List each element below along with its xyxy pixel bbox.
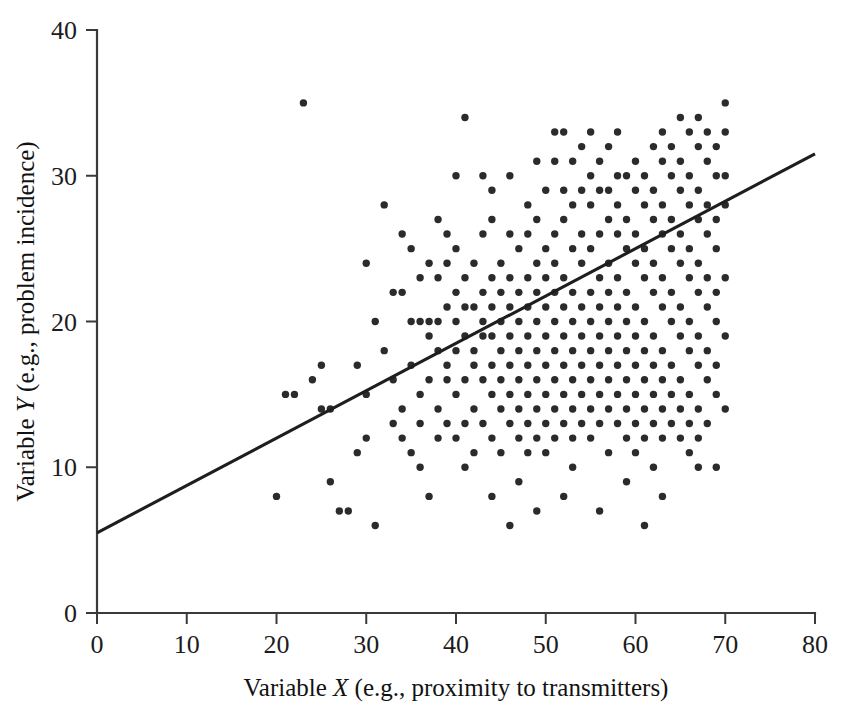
- data-point: [488, 303, 495, 310]
- data-point: [533, 216, 540, 223]
- data-point: [677, 230, 684, 237]
- data-point: [596, 507, 603, 514]
- x-axis-ticks: 01020304050607080: [91, 613, 829, 659]
- data-point: [434, 405, 441, 412]
- data-point: [632, 362, 639, 369]
- data-point: [686, 128, 693, 135]
- data-point: [461, 464, 468, 471]
- data-point: [596, 362, 603, 369]
- x-tick-label: 80: [802, 630, 828, 659]
- data-point: [650, 216, 657, 223]
- data-point: [542, 245, 549, 252]
- data-point: [452, 289, 459, 296]
- data-point: [461, 274, 468, 281]
- data-point: [569, 289, 576, 296]
- data-point: [677, 332, 684, 339]
- data-point: [407, 245, 414, 252]
- data-point: [677, 114, 684, 121]
- data-point: [695, 332, 702, 339]
- data-point: [551, 230, 558, 237]
- x-tick-label: 50: [533, 630, 559, 659]
- data-point: [506, 362, 513, 369]
- data-point: [488, 493, 495, 500]
- data-point: [605, 376, 612, 383]
- data-point: [443, 260, 450, 267]
- data-point: [704, 201, 711, 208]
- data-point: [488, 274, 495, 281]
- data-point: [560, 332, 567, 339]
- data-point: [497, 347, 504, 354]
- data-point: [704, 420, 711, 427]
- data-point: [623, 478, 630, 485]
- data-point: [506, 303, 513, 310]
- data-point: [560, 216, 567, 223]
- y-axis-ticks: 010203040: [51, 16, 97, 628]
- data-point: [345, 507, 352, 514]
- data-point: [587, 347, 594, 354]
- data-point: [713, 245, 720, 252]
- data-point: [533, 376, 540, 383]
- data-point: [632, 260, 639, 267]
- data-point: [677, 260, 684, 267]
- data-point: [713, 362, 720, 369]
- data-point: [650, 289, 657, 296]
- data-point: [551, 376, 558, 383]
- data-point: [614, 391, 621, 398]
- data-point: [497, 449, 504, 456]
- data-point: [425, 376, 432, 383]
- data-point: [686, 172, 693, 179]
- data-point: [614, 274, 621, 281]
- data-point: [659, 405, 666, 412]
- data-point: [443, 230, 450, 237]
- data-point: [632, 230, 639, 237]
- data-point: [434, 274, 441, 281]
- data-point: [659, 274, 666, 281]
- data-point: [569, 405, 576, 412]
- data-point: [578, 391, 585, 398]
- data-point: [542, 187, 549, 194]
- data-point: [291, 391, 298, 398]
- data-point: [300, 99, 307, 106]
- data-point: [605, 347, 612, 354]
- data-point: [470, 362, 477, 369]
- y-tick-label: 40: [51, 16, 77, 45]
- data-point: [623, 376, 630, 383]
- data-point: [578, 420, 585, 427]
- data-point: [479, 376, 486, 383]
- data-point: [497, 376, 504, 383]
- data-point: [497, 405, 504, 412]
- data-point: [506, 274, 513, 281]
- data-point: [578, 303, 585, 310]
- data-point: [551, 405, 558, 412]
- data-point: [614, 420, 621, 427]
- data-point: [605, 449, 612, 456]
- data-point: [524, 230, 531, 237]
- data-point: [354, 362, 361, 369]
- data-point: [587, 376, 594, 383]
- data-point: [318, 362, 325, 369]
- data-point: [389, 289, 396, 296]
- data-point: [722, 405, 729, 412]
- data-point: [569, 464, 576, 471]
- data-point: [372, 318, 379, 325]
- data-point: [425, 332, 432, 339]
- data-point: [470, 303, 477, 310]
- data-point: [578, 187, 585, 194]
- data-point: [551, 260, 558, 267]
- data-point: [524, 391, 531, 398]
- data-point: [587, 318, 594, 325]
- data-point: [659, 128, 666, 135]
- scatter-plot-figure: 01020304050607080 010203040 Variable X (…: [0, 0, 849, 714]
- data-point: [488, 187, 495, 194]
- data-point: [704, 347, 711, 354]
- data-point: [354, 449, 361, 456]
- data-point: [497, 260, 504, 267]
- data-point: [695, 405, 702, 412]
- x-tick-label: 30: [353, 630, 379, 659]
- data-point: [650, 260, 657, 267]
- data-point: [569, 434, 576, 441]
- data-point: [596, 230, 603, 237]
- data-point: [713, 464, 720, 471]
- data-point: [416, 391, 423, 398]
- regression-line: [97, 154, 815, 533]
